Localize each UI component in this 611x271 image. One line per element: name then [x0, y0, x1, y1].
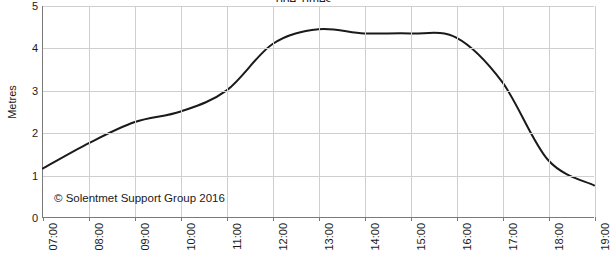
y-tick-label: 4: [18, 42, 38, 54]
x-tick-mark: [273, 217, 274, 221]
x-tick-mark: [227, 217, 228, 221]
gridline-vertical: [365, 6, 366, 217]
x-tick-label: 10:00: [185, 223, 197, 251]
gridline-vertical: [503, 6, 504, 217]
gridline-vertical: [135, 6, 136, 217]
x-tick-mark: [89, 217, 90, 221]
x-tick-mark: [595, 217, 596, 221]
y-tick-label: 1: [18, 170, 38, 182]
x-tick-label: 13:00: [323, 223, 335, 251]
x-tick-mark: [365, 217, 366, 221]
x-tick-label: 18:00: [553, 223, 565, 251]
x-tick-label: 16:00: [461, 223, 473, 251]
y-tick-label: 0: [18, 212, 38, 224]
x-tick-label: 15:00: [415, 223, 427, 251]
gridline-vertical: [89, 6, 90, 217]
x-tick-mark: [411, 217, 412, 221]
y-tick-label: 5: [18, 0, 38, 12]
y-tick-label: 2: [18, 127, 38, 139]
gridline-vertical: [411, 6, 412, 217]
x-tick-label: 09:00: [139, 223, 151, 251]
x-tick-label: 19:00: [599, 223, 611, 251]
chart-title: Tide Times: [0, 0, 605, 2]
gridline-vertical: [595, 6, 596, 217]
x-tick-mark: [43, 217, 44, 221]
y-axis-label: Metres: [6, 72, 18, 132]
x-tick-mark: [503, 217, 504, 221]
gridline-vertical: [457, 6, 458, 217]
x-tick-label: 07:00: [47, 223, 59, 251]
copyright-annotation: © Solentmet Support Group 2016: [54, 192, 225, 204]
x-tick-label: 12:00: [277, 223, 289, 251]
gridline-vertical: [273, 6, 274, 217]
gridline-vertical: [181, 6, 182, 217]
x-tick-label: 14:00: [369, 223, 381, 251]
gridline-vertical: [227, 6, 228, 217]
x-tick-mark: [181, 217, 182, 221]
gridline-vertical: [549, 6, 550, 217]
x-tick-mark: [135, 217, 136, 221]
x-tick-mark: [457, 217, 458, 221]
x-tick-label: 08:00: [93, 223, 105, 251]
x-tick-label: 11:00: [231, 223, 243, 250]
x-tick-mark: [319, 217, 320, 221]
x-tick-mark: [549, 217, 550, 221]
gridline-vertical: [319, 6, 320, 217]
x-tick-label: 17:00: [507, 223, 519, 251]
y-tick-label: 3: [18, 85, 38, 97]
plot-area: 01234507:0008:0009:0010:0011:0012:0013:0…: [42, 6, 594, 218]
